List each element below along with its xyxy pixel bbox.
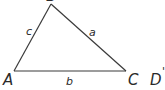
side-b-label: b [66,76,73,87]
side-c-line [14,4,51,71]
vertex-c-label: C [128,73,138,88]
vertex-a-label: A [3,73,13,88]
point-d-label: D [150,73,162,88]
vertex-b-label: B [46,0,56,4]
side-a-label: a [89,27,96,38]
side-c-label: c [26,26,32,37]
triangle-diagram [0,0,165,90]
point-d-prime-mark: ' [162,66,165,77]
